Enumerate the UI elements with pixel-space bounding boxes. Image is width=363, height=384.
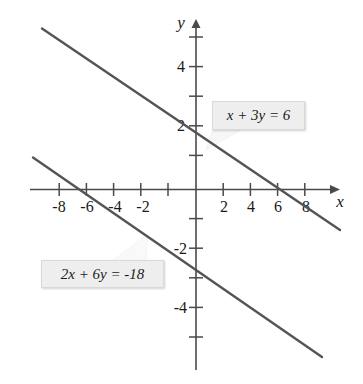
callout-lower-line-equation: 2x + 6y = -18 (41, 260, 164, 288)
x-tick-label: 4 (247, 198, 255, 215)
x-tick-label: -6 (80, 198, 93, 215)
callout-upper-pointer (206, 127, 246, 150)
x-tick-label: 6 (274, 198, 282, 215)
x-tick-label: -4 (108, 198, 121, 215)
y-tick-label: -2 (174, 240, 187, 257)
callout-upper-text: x + 3y = 6 (227, 107, 291, 124)
x-axis-label: x (335, 192, 344, 211)
y-tick-label: -4 (174, 299, 187, 316)
callout-lower-text: 2x + 6y = -18 (61, 266, 145, 283)
callout-lower-pointer (112, 234, 148, 261)
y-axis-label: y (175, 13, 185, 32)
callout-upper-line-equation: x + 3y = 6 (212, 101, 305, 130)
y-tick-labels: 4 2 -2 -4 (174, 58, 187, 316)
x-tick-label: -2 (136, 198, 149, 215)
y-axis (192, 19, 201, 370)
y-tick-label: 4 (177, 58, 185, 75)
x-tick-labels: -8 -6 -4 -2 2 4 6 8 (52, 198, 310, 215)
x-tick-label: 2 (220, 198, 228, 215)
x-tick-label: -8 (52, 198, 65, 215)
coordinate-graph: -8 -6 -4 -2 2 4 6 8 4 2 -2 -4 y x (0, 0, 363, 384)
